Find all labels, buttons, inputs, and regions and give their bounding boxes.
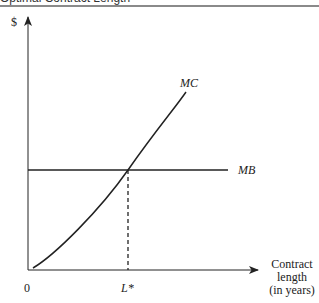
lstar-label: L* — [121, 281, 134, 296]
x-axis-label: Contract length (in years) — [264, 258, 319, 297]
x-axis-label-line3: (in years) — [264, 284, 319, 297]
mc-curve — [33, 92, 186, 268]
origin-label: 0 — [24, 281, 30, 296]
y-axis-label: $ — [11, 15, 17, 30]
mb-label: MB — [238, 163, 255, 178]
mc-label: MC — [180, 76, 198, 91]
